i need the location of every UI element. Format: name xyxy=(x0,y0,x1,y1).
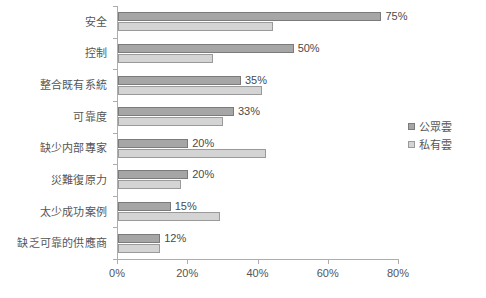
category-label: 控制 xyxy=(85,47,107,59)
plot-area: 0%20%40%60%80% 75%50%35%33%20%20%15%12% xyxy=(117,6,398,259)
category-label: 整合既有系統 xyxy=(40,79,107,91)
bar-private-cloud xyxy=(118,149,266,158)
x-axis-tick xyxy=(187,259,188,264)
category-axis-labels: 安全控制整合既有系統可靠度缺少内部專家災難復原力太少成功案例缺乏可靠的供應商 xyxy=(0,6,112,259)
bar-public-cloud xyxy=(118,44,294,53)
bar-public-cloud xyxy=(118,202,171,211)
bar-value-label: 33% xyxy=(238,106,260,117)
x-axis-tick-label: 80% xyxy=(387,267,409,279)
bar-value-label: 35% xyxy=(245,75,267,86)
y-axis-tick xyxy=(113,196,117,197)
legend-swatch-icon xyxy=(408,123,415,130)
bar-public-cloud xyxy=(118,12,381,21)
bar-private-cloud xyxy=(118,117,223,126)
bar-value-label: 75% xyxy=(385,11,407,22)
y-axis-tick xyxy=(113,227,117,228)
legend: 公眾雲私有雲 xyxy=(408,118,482,154)
bar-value-label: 20% xyxy=(192,138,214,149)
bar-public-cloud xyxy=(118,170,188,179)
category-label: 可靠度 xyxy=(73,111,107,123)
bar-public-cloud xyxy=(118,76,241,85)
category-label: 缺少内部專家 xyxy=(40,142,107,154)
y-axis-tick xyxy=(113,6,117,7)
bar-chart: 安全控制整合既有系統可靠度缺少内部專家災難復原力太少成功案例缺乏可靠的供應商 0… xyxy=(0,0,486,298)
x-axis-tick xyxy=(398,259,399,264)
bar-value-label: 12% xyxy=(164,233,186,244)
bar-public-cloud xyxy=(118,139,188,148)
x-axis-tick xyxy=(328,259,329,264)
x-axis-tick-label: 60% xyxy=(317,267,339,279)
bar-private-cloud xyxy=(118,22,273,31)
legend-item: 私有雲 xyxy=(408,136,482,152)
x-axis-tick-label: 20% xyxy=(176,267,198,279)
y-axis-tick xyxy=(113,38,117,39)
category-label: 缺乏可靠的供應商 xyxy=(17,237,107,249)
legend-label: 公眾雲 xyxy=(419,118,453,134)
category-label: 災難復原力 xyxy=(51,174,107,186)
y-axis-tick xyxy=(113,164,117,165)
y-axis-tick xyxy=(113,69,117,70)
bar-private-cloud xyxy=(118,86,262,95)
x-axis-tick-label: 0% xyxy=(109,267,125,279)
legend-swatch-icon xyxy=(408,141,415,148)
x-axis-tick xyxy=(258,259,259,264)
bar-value-label: 20% xyxy=(192,169,214,180)
category-label: 安全 xyxy=(85,16,107,28)
category-label: 太少成功案例 xyxy=(40,206,107,218)
x-axis-tick xyxy=(117,259,118,264)
bar-public-cloud xyxy=(118,234,160,243)
x-axis-tick-label: 40% xyxy=(246,267,268,279)
bar-public-cloud xyxy=(118,107,234,116)
y-axis-tick xyxy=(113,133,117,134)
legend-item: 公眾雲 xyxy=(408,118,482,134)
bar-private-cloud xyxy=(118,54,213,63)
legend-label: 私有雲 xyxy=(419,136,453,152)
y-axis-tick xyxy=(113,101,117,102)
bar-value-label: 15% xyxy=(175,201,197,212)
bar-private-cloud xyxy=(118,180,181,189)
bar-value-label: 50% xyxy=(298,43,320,54)
bar-private-cloud xyxy=(118,212,220,221)
bar-private-cloud xyxy=(118,244,160,253)
